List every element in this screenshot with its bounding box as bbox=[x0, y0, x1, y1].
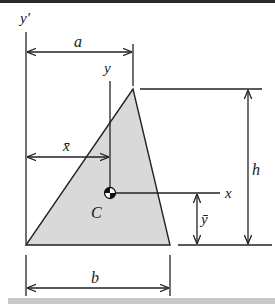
centroid-label: C bbox=[91, 204, 102, 221]
dim-a-label: a bbox=[74, 33, 82, 50]
top-border bbox=[0, 0, 275, 3]
triangle-shape bbox=[26, 89, 170, 245]
dim-b-label: b bbox=[91, 269, 99, 286]
dim-h-label: h bbox=[252, 161, 260, 178]
centroid-marker-icon bbox=[105, 188, 116, 199]
y-bar-label: ȳ bbox=[199, 211, 208, 227]
x-bar-label: x̄ bbox=[62, 138, 70, 154]
y-axis-label: y bbox=[102, 60, 111, 76]
triangle-centroid-diagram: y′ a y x̄ x C ȳ h b bbox=[0, 0, 275, 307]
bottom-border bbox=[8, 298, 275, 304]
x-axis-label: x bbox=[224, 185, 232, 201]
y-prime-axis-label: y′ bbox=[18, 10, 31, 26]
